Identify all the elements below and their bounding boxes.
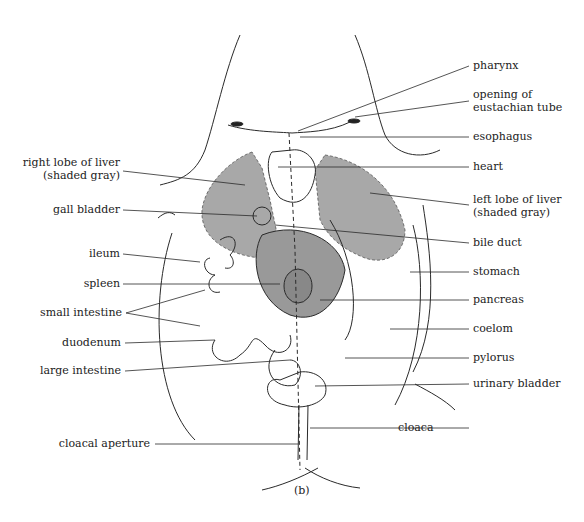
label-pancreas: pancreas (473, 293, 524, 306)
label-urinary-bladder: urinary bladder (473, 377, 560, 390)
label-spleen: spleen (84, 277, 120, 290)
label-bile-duct: bile duct (473, 236, 522, 249)
label-duodenum: duodenum (62, 336, 121, 349)
frog-anatomy-diagram: right lobe of liver (shaded gray) gall b… (0, 0, 584, 522)
label-pharynx: pharynx (473, 59, 518, 72)
label-opening-of-eustachian-tube: opening of eustachian tube (473, 88, 562, 114)
label-coelom: coelom (473, 322, 513, 335)
label-pylorus: pylorus (473, 351, 514, 364)
label-small-intestine: small intestine (40, 306, 122, 319)
label-cloaca: cloaca (398, 421, 434, 434)
label-heart: heart (473, 160, 503, 173)
label-stomach: stomach (473, 265, 520, 278)
label-ileum: ileum (89, 247, 120, 260)
label-cloacal-aperture: cloacal aperture (59, 437, 150, 450)
label-large-intestine: large intestine (40, 364, 121, 377)
figure-caption: (b) (294, 484, 310, 497)
label-esophagus: esophagus (473, 130, 532, 143)
label-gall-bladder: gall bladder (53, 203, 120, 216)
label-right-lobe-of-liver: right lobe of liver (shaded gray) (23, 156, 120, 182)
label-left-lobe-of-liver: left lobe of liver (shaded gray) (473, 193, 561, 219)
